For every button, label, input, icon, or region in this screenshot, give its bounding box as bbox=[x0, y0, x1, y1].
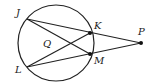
point-p bbox=[139, 41, 143, 45]
label-k: K bbox=[93, 20, 102, 31]
label-p: P bbox=[137, 26, 145, 37]
label-l: L bbox=[14, 64, 22, 75]
circle bbox=[18, 5, 94, 81]
chord-jm bbox=[27, 19, 90, 54]
point-k bbox=[88, 31, 92, 35]
chord-lk bbox=[27, 33, 90, 67]
point-m bbox=[88, 52, 92, 56]
label-m: M bbox=[93, 55, 105, 66]
geometry-diagram: J K L M P Q bbox=[0, 0, 153, 84]
label-j: J bbox=[14, 7, 21, 18]
label-q: Q bbox=[43, 38, 51, 49]
